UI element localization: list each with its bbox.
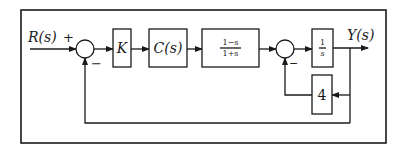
sum1-minus-sign: −	[91, 56, 102, 71]
gain-k-block: K	[113, 29, 131, 67]
block-diagram: R(s) + − K C(s) 1−s 1+s − 1 s Y(s)	[0, 0, 407, 152]
plant-denominator: 1+s	[223, 49, 239, 58]
output-label: Y(s)	[347, 27, 374, 43]
outer-feedback-line	[85, 58, 350, 123]
controller-block: C(s)	[149, 29, 187, 67]
integrator-numerator: 1	[320, 38, 325, 47]
inner-feedback-gain-label: 4	[318, 87, 327, 103]
sum1-plus-sign: +	[63, 30, 74, 45]
summing-junction-2	[276, 40, 294, 58]
sum2-minus-sign: −	[289, 57, 298, 70]
controller-label: C(s)	[154, 40, 183, 56]
integrator-denominator: s	[320, 49, 324, 58]
plant-allpass-block: 1−s 1+s	[202, 29, 259, 67]
input-label: R(s)	[27, 29, 57, 45]
inner-feedback-gain-block: 4	[312, 75, 332, 114]
integrator-block: 1 s	[312, 29, 333, 67]
gain-k-label: K	[116, 40, 129, 56]
plant-numerator: 1−s	[223, 38, 239, 47]
